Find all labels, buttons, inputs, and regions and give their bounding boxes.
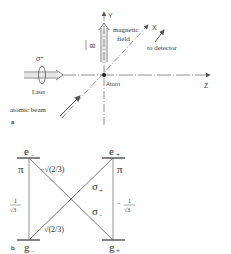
atomic-beam-label: atomic beam: [10, 106, 47, 114]
label-pi-right: π: [117, 163, 123, 175]
svg-text:√3: √3: [10, 207, 16, 213]
label-g-plus: g: [109, 241, 115, 253]
y-axis-label: Y: [108, 12, 113, 19]
laser-polarization: σ⁺: [36, 55, 44, 62]
x-axis-label: X: [152, 24, 157, 31]
laser-beam-arrow: [24, 70, 63, 80]
label-g-minus: g: [24, 241, 30, 253]
coef-upper-cross: −√(2/3): [40, 165, 65, 174]
svg-text:√3: √3: [124, 207, 130, 213]
figure: Y Z X B magnetic field to detector: [0, 0, 231, 254]
detector-label: to detector: [147, 44, 177, 52]
svg-text:1: 1: [128, 198, 131, 204]
label-g-plus-sub: +: [116, 247, 120, 254]
panel-a-label: a: [11, 119, 15, 125]
polarization-circle-icon: [39, 66, 46, 84]
label-pi-left: π: [18, 163, 24, 175]
atomic-beam-arrow: [60, 96, 80, 116]
b-vector-label: B: [89, 43, 96, 48]
label-sigma-plus-sub: +: [99, 187, 103, 195]
detector-arrow: [155, 30, 164, 42]
coef-lower-cross: √(2/3): [44, 225, 64, 234]
label-e-minus-sub: −: [31, 152, 35, 158]
label-sigma-minus: σ: [92, 205, 98, 217]
label-sigma-minus-sub: −: [99, 212, 103, 218]
atom-label: Atom: [106, 81, 120, 87]
label-g-minus-sub: −: [31, 248, 35, 254]
panel-a: Y Z X B magnetic field to detector: [10, 12, 210, 125]
panel-b: e − e + g − g + π π σ + σ − −√(2/3) √(2/…: [10, 145, 135, 254]
field-label-line1: magnetic: [113, 26, 139, 34]
label-e-minus: e: [24, 145, 29, 157]
laser-label: Laser: [32, 89, 45, 95]
coef-left-vertical: 1 √3: [10, 198, 21, 213]
panel-b-label: b: [11, 245, 15, 251]
svg-text:1: 1: [14, 198, 17, 204]
atom-dot: [102, 73, 106, 77]
label-e-plus: e: [109, 145, 114, 157]
svg-text:−: −: [117, 200, 121, 208]
coef-right-vertical: − 1 √3: [117, 198, 135, 213]
label-sigma-plus: σ: [92, 180, 98, 192]
z-axis-label: Z: [204, 82, 209, 89]
label-e-plus-sub: +: [116, 151, 120, 159]
field-label-line2: field: [117, 35, 130, 43]
